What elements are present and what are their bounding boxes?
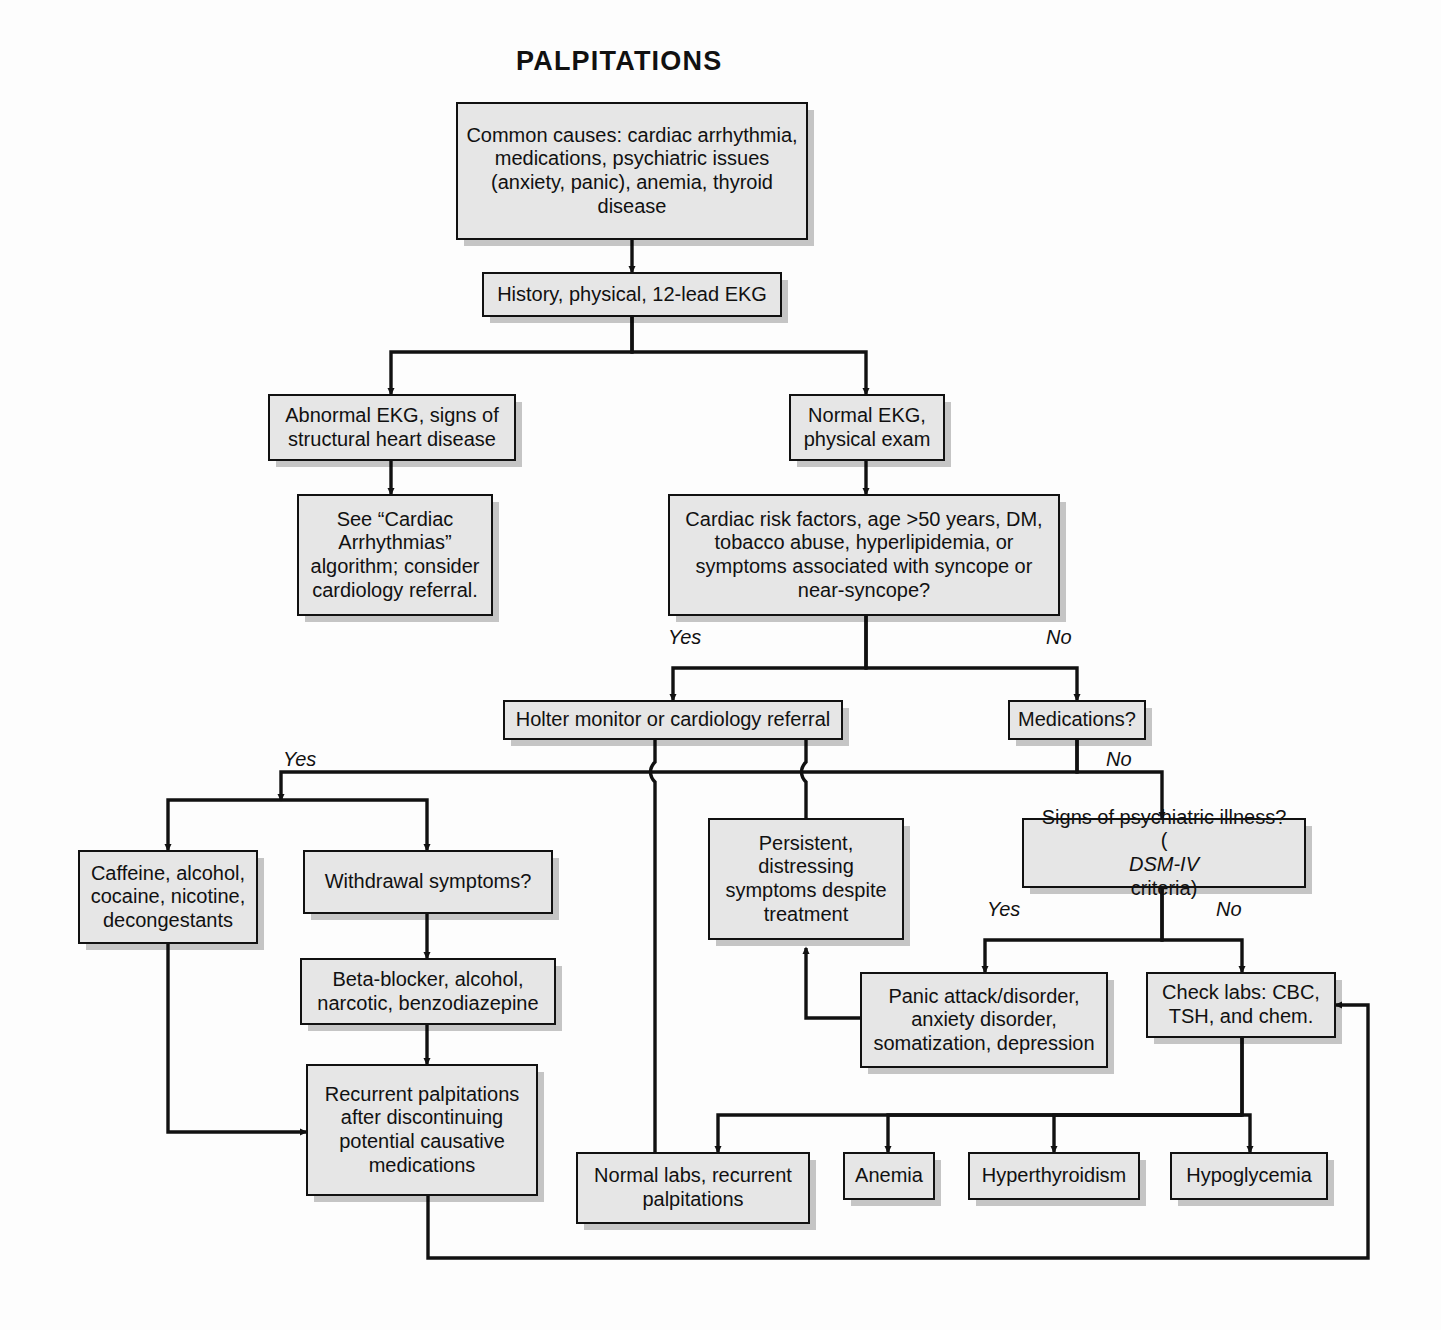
node-medications-question[interactable]: Medications? bbox=[1008, 700, 1146, 740]
node-normal-ekg-label: Normal EKG, physical exam bbox=[798, 404, 936, 451]
node-medications-label: Medications? bbox=[1017, 708, 1137, 732]
node-beta-blocker-label: Beta-blocker, alcohol, narcotic, benzodi… bbox=[309, 968, 547, 1015]
node-panic-label: Panic attack/disorder, anxiety disorder,… bbox=[869, 985, 1099, 1056]
node-abnormal-ekg-label: Abnormal EKG, signs of structural heart … bbox=[277, 404, 507, 451]
node-see-cardiac-label: See “Cardiac Arrhythmias” algorithm; con… bbox=[306, 508, 484, 602]
node-hypoglycemia[interactable]: Hypoglycemia bbox=[1170, 1152, 1328, 1200]
node-withdrawal-label: Withdrawal symptoms? bbox=[312, 870, 544, 894]
node-hyperthyroidism-label: Hyperthyroidism bbox=[977, 1164, 1131, 1188]
page-title: PALPITATIONS bbox=[516, 46, 722, 77]
node-psychiatric-illness-question[interactable]: Signs of psychiatric illness? (DSM-IV cr… bbox=[1022, 818, 1306, 888]
edge-label-risk-no: No bbox=[1046, 626, 1072, 649]
node-caffeine-stimulants[interactable]: Caffeine, alcohol, cocaine, nicotine, de… bbox=[78, 850, 258, 944]
edge-label-psych-yes: Yes bbox=[987, 898, 1020, 921]
node-see-cardiac-arrhythmias[interactable]: See “Cardiac Arrhythmias” algorithm; con… bbox=[297, 494, 493, 616]
edge-label-risk-yes: Yes bbox=[668, 626, 701, 649]
node-psychiatric-dsm: DSM-IV bbox=[1129, 853, 1199, 875]
node-normal-labs-label: Normal labs, recurrent palpitations bbox=[585, 1164, 801, 1211]
node-psychiatric-label: Signs of psychiatric illness? (DSM-IV cr… bbox=[1031, 806, 1297, 900]
flowchart-canvas: PALPITATIONS bbox=[0, 0, 1441, 1330]
node-history-physical-ekg[interactable]: History, physical, 12-lead EKG bbox=[482, 272, 782, 317]
node-common-causes[interactable]: Common causes: cardiac arrhythmia, medic… bbox=[456, 102, 808, 240]
node-common-causes-label: Common causes: cardiac arrhythmia, medic… bbox=[465, 124, 799, 218]
node-psychiatric-criteria: criteria) bbox=[1031, 877, 1297, 901]
node-normal-labs-recurrent[interactable]: Normal labs, recurrent palpitations bbox=[576, 1152, 810, 1224]
node-anemia-label: Anemia bbox=[852, 1164, 926, 1188]
node-persistent-symptoms[interactable]: Persistent, distressing symptoms despite… bbox=[708, 818, 904, 940]
node-withdrawal-symptoms[interactable]: Withdrawal symptoms? bbox=[303, 850, 553, 914]
node-beta-blocker-list[interactable]: Beta-blocker, alcohol, narcotic, benzodi… bbox=[300, 958, 556, 1025]
edge-label-meds-yes: Yes bbox=[283, 748, 316, 771]
node-risk-factors-label: Cardiac risk factors, age >50 years, DM,… bbox=[677, 508, 1051, 602]
node-psychiatric-line1: Signs of psychiatric illness? bbox=[1031, 806, 1297, 830]
node-check-labs[interactable]: Check labs: CBC, TSH, and chem. bbox=[1146, 972, 1336, 1038]
edge-label-psych-no: No bbox=[1216, 898, 1242, 921]
node-caffeine-label: Caffeine, alcohol, cocaine, nicotine, de… bbox=[87, 862, 249, 933]
node-check-labs-label: Check labs: CBC, TSH, and chem. bbox=[1155, 981, 1327, 1028]
node-normal-ekg[interactable]: Normal EKG, physical exam bbox=[789, 394, 945, 461]
node-history-label: History, physical, 12-lead EKG bbox=[491, 283, 773, 307]
node-cardiac-risk-factors[interactable]: Cardiac risk factors, age >50 years, DM,… bbox=[668, 494, 1060, 616]
node-recurrent-palpitations[interactable]: Recurrent palpitations after discontinui… bbox=[306, 1064, 538, 1196]
node-holter-label: Holter monitor or cardiology referral bbox=[512, 708, 834, 732]
edge-label-meds-no: No bbox=[1106, 748, 1132, 771]
node-panic-attack-disorder[interactable]: Panic attack/disorder, anxiety disorder,… bbox=[860, 972, 1108, 1068]
node-holter-monitor[interactable]: Holter monitor or cardiology referral bbox=[503, 700, 843, 740]
node-hypoglycemia-label: Hypoglycemia bbox=[1179, 1164, 1319, 1188]
node-hyperthyroidism[interactable]: Hyperthyroidism bbox=[968, 1152, 1140, 1200]
node-abnormal-ekg[interactable]: Abnormal EKG, signs of structural heart … bbox=[268, 394, 516, 461]
node-anemia[interactable]: Anemia bbox=[843, 1152, 935, 1200]
node-psychiatric-paren-open: ( bbox=[1031, 829, 1297, 853]
node-persistent-label: Persistent, distressing symptoms despite… bbox=[717, 832, 895, 926]
node-recurrent-label: Recurrent palpitations after discontinui… bbox=[315, 1083, 529, 1177]
